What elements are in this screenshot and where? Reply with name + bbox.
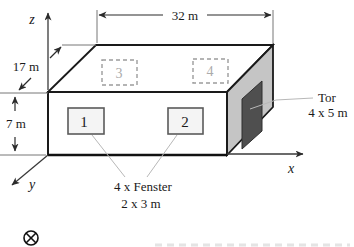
window-3-number: 3 xyxy=(116,66,123,81)
circled-x-icon xyxy=(24,231,38,245)
window-4-number: 4 xyxy=(207,64,214,79)
building-dimension-diagram: 1 2 3 4 z y x 32 m 17 m 7 m xyxy=(0,0,354,247)
window-note-line2: 2 x 3 m xyxy=(121,196,160,211)
height-dimension: 7 m xyxy=(0,97,46,155)
window-1-number: 1 xyxy=(80,114,88,130)
door-note-line2: 4 x 5 m xyxy=(308,105,347,120)
window-2-number: 2 xyxy=(181,114,189,130)
y-axis-label: y xyxy=(27,177,36,192)
height-dimension-label: 7 m xyxy=(6,116,26,131)
width-dimension: 32 m xyxy=(97,8,273,44)
depth-arrow-upper xyxy=(50,47,61,58)
diagram-canvas: 1 2 3 4 z y x 32 m 17 m 7 m xyxy=(0,0,354,247)
depth-dimension-label: 17 m xyxy=(13,59,39,74)
window-note-line1: 4 x Fenster xyxy=(114,179,172,194)
door-note-line1: Tor xyxy=(318,90,337,105)
x-axis-label: x xyxy=(287,161,295,176)
width-dimension-label: 32 m xyxy=(172,8,198,23)
depth-arrow-lower xyxy=(19,78,31,90)
z-axis-label: z xyxy=(28,12,35,27)
